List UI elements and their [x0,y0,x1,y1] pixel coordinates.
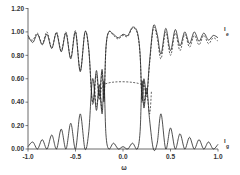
y-tick-label: 1.20 [11,5,24,12]
y-tick-label: 1.00 [11,28,24,35]
x-tick-label: -1.0 [22,153,34,160]
y-tick-label: 0.60 [11,75,24,82]
y-tick-label: 0.00 [11,145,24,152]
x-axis-label: ω [121,164,127,171]
y-tick-label: 0.20 [11,122,24,129]
y-tick-label: 0.80 [11,52,24,59]
series-line-2 [28,78,218,150]
series-label-ig: I g [224,138,229,149]
x-axis: -1.0-0.50.00.51.0 [22,149,222,160]
x-tick-label: 1.0 [213,153,222,160]
svg-text:g: g [226,143,229,149]
x-tick-label: 0.0 [118,153,127,160]
x-tick-label: -0.5 [70,153,82,160]
plot-area [28,25,218,151]
series-label-ie: I e [224,26,229,37]
y-tick-label: 0.40 [11,98,24,105]
series-line-1 [28,27,218,105]
series-line-0 [28,25,218,103]
y-axis: 0.000.200.400.600.801.001.20 [11,5,28,153]
line-chart: 0.000.200.400.600.801.001.20 -1.0-0.50.0… [0,0,240,175]
x-tick-label: 0.5 [166,153,175,160]
svg-text:e: e [226,31,229,37]
